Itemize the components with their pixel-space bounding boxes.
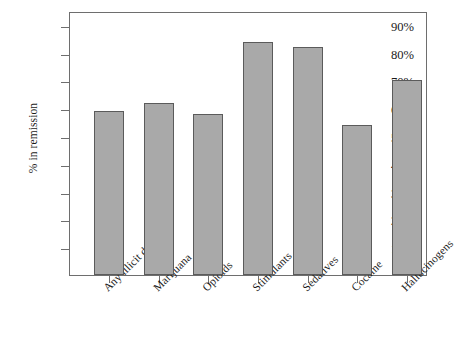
y-axis-tick [61,166,70,167]
bar [94,111,124,275]
y-axis-tick [61,82,70,83]
bar [144,103,174,275]
y-axis-tick [61,55,70,56]
plot-area: 10%20%30%40%50%60%70%80%90% Any illicit … [69,12,427,276]
y-axis-tick [61,221,70,222]
bar [193,114,223,275]
y-axis-tick [61,249,70,250]
bar [243,42,273,275]
bar [342,125,372,275]
bar [392,80,422,275]
y-axis-tick-label: 90% [391,19,414,34]
y-axis-tick [61,27,70,28]
y-axis-tick [61,110,70,111]
y-axis-title: % in remission [27,58,39,218]
y-axis-tick [61,138,70,139]
y-axis-tick [61,194,70,195]
y-axis-tick-label: 80% [391,47,414,62]
bar [293,47,323,275]
